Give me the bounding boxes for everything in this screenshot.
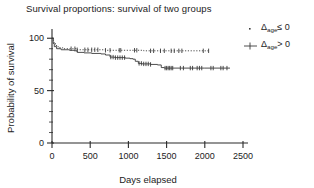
- survival-chart-figure: Survival proportions: survival of two gr…: [0, 0, 314, 188]
- legend-label-le: Δage≤ 0: [261, 23, 290, 32]
- legend-entry-gt: Δage> 0: [243, 39, 314, 56]
- tick-labels: 05010005001000150020002500: [29, 33, 253, 161]
- x-tick-label: 2000: [195, 151, 215, 161]
- chart-legend: Δage≤ 0 Δage> 0: [243, 22, 314, 58]
- x-tick-label: 1500: [157, 151, 177, 161]
- x-tick-label: 500: [83, 151, 98, 161]
- x-tick-label: 2500: [233, 151, 253, 161]
- legend-label-gt: Δage> 0: [261, 40, 290, 49]
- x-axis-title: Days elapsed: [119, 174, 177, 185]
- y-tick-label: 50: [34, 86, 44, 96]
- line-tick-marker-icon: [243, 39, 259, 53]
- dot-marker-icon: [243, 22, 259, 36]
- y-axis-title: Probability of survival: [5, 43, 16, 133]
- survival-curve-delta-age-le-0: [52, 38, 209, 51]
- y-tick-label: 0: [39, 138, 44, 148]
- axes: [47, 29, 248, 148]
- survival-curves: [52, 38, 230, 70]
- x-tick-label: 0: [49, 151, 54, 161]
- x-tick-label: 1000: [118, 151, 138, 161]
- legend-entry-le: Δage≤ 0: [243, 22, 314, 39]
- y-tick-label: 100: [29, 33, 44, 43]
